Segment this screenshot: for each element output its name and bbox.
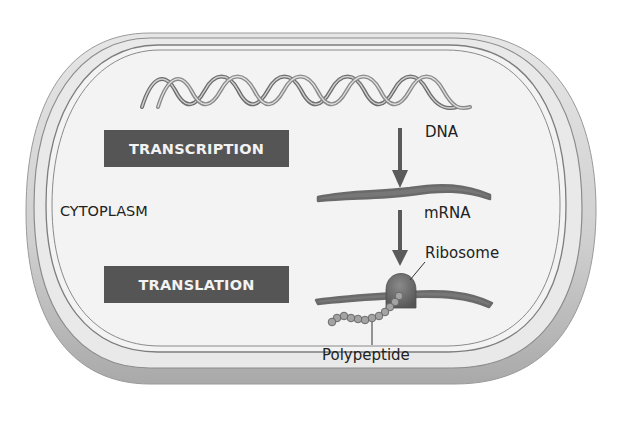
transcription-box: TRANSCRIPTION [104, 130, 289, 167]
dna-label: DNA [425, 125, 458, 140]
ribosome-label: Ribosome [425, 246, 499, 261]
cytoplasm-label: CYTOPLASM [60, 204, 148, 219]
prokaryotic-cell-diagram: TRANSCRIPTION TRANSLATION CYTOPLASM DNA … [0, 0, 621, 422]
translation-box: TRANSLATION [104, 266, 289, 303]
mrna-label: mRNA [424, 206, 471, 221]
polypeptide-label: Polypeptide [322, 348, 410, 363]
